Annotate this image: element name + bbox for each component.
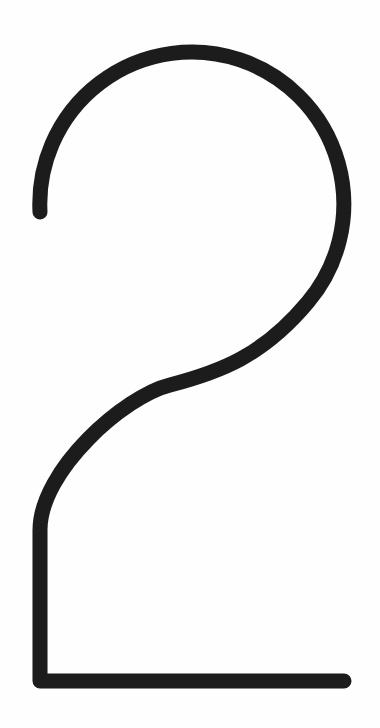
numeral-two-glyph	[0, 0, 380, 728]
numeral-two-stroke	[40, 52, 344, 681]
canvas	[0, 0, 380, 728]
